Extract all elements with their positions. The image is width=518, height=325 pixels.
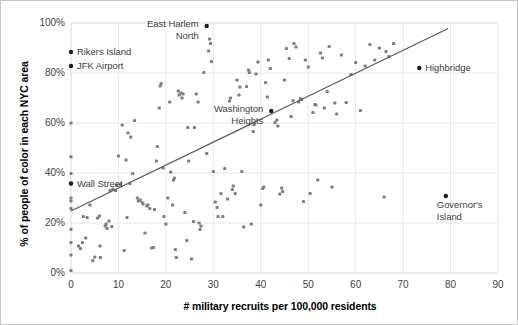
- data-point: [267, 58, 270, 61]
- data-point: [98, 244, 101, 247]
- data-point: [69, 155, 72, 158]
- data-point: [198, 228, 201, 231]
- data-point: [171, 203, 174, 206]
- data-point: [321, 56, 324, 59]
- data-point: [307, 65, 310, 68]
- data-point: [202, 71, 205, 74]
- data-point: [105, 227, 108, 230]
- data-point: [316, 178, 319, 181]
- data-point: [208, 37, 211, 40]
- data-point: [291, 99, 294, 102]
- data-point: [180, 96, 183, 99]
- data-point: [232, 184, 235, 187]
- data-point: [105, 222, 108, 225]
- point-annotation-label: JFK Airport: [77, 60, 123, 72]
- x-axis-title: # military recruits per 100,000 resident…: [1, 300, 518, 312]
- data-point: [156, 145, 159, 148]
- x-tick-label: 30: [193, 279, 233, 290]
- data-point: [373, 58, 376, 61]
- data-point: [153, 208, 156, 211]
- data-point: [88, 203, 91, 206]
- data-point: [323, 106, 326, 109]
- point-annotation-label: Washington Heights: [214, 103, 263, 126]
- data-point: [86, 216, 89, 219]
- data-point: [81, 241, 84, 244]
- x-tick-label: 40: [241, 279, 281, 290]
- data-point: [266, 95, 269, 98]
- y-tick-label: 20%: [25, 217, 65, 228]
- data-point: [107, 219, 110, 222]
- data-point: [285, 47, 288, 50]
- x-tick-label: 0: [51, 279, 91, 290]
- data-point: [131, 172, 134, 175]
- data-point: [155, 159, 158, 162]
- data-point: [152, 246, 155, 249]
- data-point: [231, 188, 234, 191]
- data-point: [173, 176, 176, 179]
- x-tick-label: 10: [98, 279, 138, 290]
- x-tick-label: 80: [431, 279, 471, 290]
- point-annotation-label: Rikers Island: [77, 46, 131, 58]
- data-point: [384, 50, 387, 53]
- data-point: [69, 196, 72, 199]
- data-point: [368, 43, 371, 46]
- data-point: [195, 92, 198, 95]
- data-point: [269, 67, 272, 70]
- data-point: [288, 57, 291, 60]
- data-point: [69, 199, 72, 202]
- data-point: [168, 100, 171, 103]
- data-point: [192, 220, 195, 223]
- data-point: [110, 225, 113, 228]
- data-point: [169, 170, 172, 173]
- point-annotation-label: Wall Street: [77, 178, 123, 190]
- data-point: [219, 192, 222, 195]
- data-point: [124, 158, 127, 161]
- data-point: [309, 192, 312, 195]
- data-point: [198, 221, 201, 224]
- data-point: [245, 85, 248, 88]
- point-annotation-label: Governor's Island: [437, 199, 483, 222]
- x-tick-label: 60: [336, 279, 376, 290]
- x-tick-label: 70: [383, 279, 423, 290]
- data-point: [359, 109, 362, 112]
- data-point: [91, 259, 94, 262]
- data-point: [69, 228, 72, 231]
- data-point: [383, 195, 386, 198]
- data-point: [238, 85, 241, 88]
- highlighted-data-point: [269, 109, 273, 113]
- data-point: [69, 121, 72, 124]
- data-point: [314, 103, 317, 106]
- data-point: [143, 231, 146, 234]
- data-point: [183, 211, 186, 214]
- data-point: [84, 236, 87, 239]
- highlighted-data-point: [69, 50, 73, 54]
- data-point: [264, 81, 267, 84]
- data-point: [294, 45, 297, 48]
- y-tick-label: 100%: [25, 17, 65, 28]
- highlighted-data-point: [69, 181, 73, 185]
- data-point: [210, 60, 213, 63]
- data-point: [162, 215, 165, 218]
- data-point: [142, 202, 145, 205]
- data-point: [69, 207, 72, 210]
- data-point: [209, 42, 212, 45]
- data-point: [256, 60, 259, 63]
- data-point: [237, 93, 240, 96]
- data-point: [205, 152, 208, 155]
- data-point: [216, 206, 219, 209]
- data-point: [378, 46, 381, 49]
- data-point: [254, 72, 257, 75]
- data-point: [175, 256, 178, 259]
- data-point: [160, 82, 163, 85]
- data-point: [242, 225, 245, 228]
- data-point: [281, 190, 284, 193]
- data-point: [164, 222, 167, 225]
- data-point: [177, 89, 180, 92]
- data-point: [250, 222, 253, 225]
- highlighted-data-point: [69, 64, 73, 68]
- data-point: [174, 248, 177, 251]
- data-point: [302, 200, 305, 203]
- y-tick-label: 0%: [25, 267, 65, 278]
- data-point: [280, 186, 283, 189]
- data-point: [93, 255, 96, 258]
